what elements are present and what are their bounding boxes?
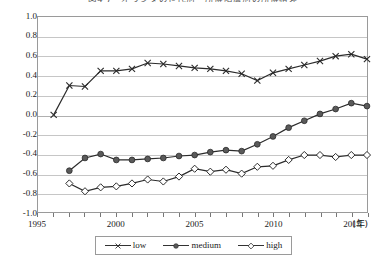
y-axis-tick-label: -0.2	[5, 130, 37, 139]
legend-item-medium[interactable]: medium	[163, 241, 221, 251]
data-point-circle	[113, 157, 119, 163]
x-axis-tick	[147, 213, 148, 217]
x-axis-tick	[258, 213, 259, 217]
data-point-circle	[286, 125, 292, 131]
data-point-x	[115, 243, 120, 248]
y-axis-tick-label: 0.0	[5, 110, 37, 119]
x-axis-tick	[305, 213, 306, 217]
y-axis-tick-label: 0.8	[5, 31, 37, 40]
data-point-circle	[317, 111, 323, 117]
chart-container: 図4-7 オランダの世代別・所得階層別の所得格差 1.00.80.60.40.2…	[0, 0, 386, 261]
y-axis-tick-label: 0.6	[5, 51, 37, 60]
data-point-circle	[145, 156, 151, 162]
x-axis-tick	[289, 213, 290, 217]
data-point-diamond	[301, 151, 308, 158]
legend-marker-circle-icon	[163, 241, 189, 251]
x-axis-tick	[210, 213, 211, 217]
series-layer	[38, 17, 367, 213]
data-point-circle	[348, 100, 354, 106]
x-axis-tick	[352, 213, 353, 217]
chart-legend: lowmediumhigh	[95, 236, 292, 255]
data-point-diamond	[144, 176, 151, 183]
x-axis-tick	[163, 213, 164, 217]
data-point-diamond	[97, 184, 104, 191]
x-axis-tick-label: 1995	[17, 220, 57, 229]
data-point-diamond	[254, 163, 261, 170]
legend-label: high	[266, 241, 282, 250]
plot-area	[37, 16, 368, 213]
data-point-diamond	[160, 178, 167, 185]
legend-label: low	[133, 241, 147, 250]
data-point-circle	[174, 243, 179, 248]
legend-item-high[interactable]: high	[238, 241, 282, 251]
x-axis-tick-label: 2005	[175, 220, 215, 229]
data-point-diamond	[269, 162, 276, 169]
data-point-diamond	[81, 188, 88, 195]
data-point-circle	[98, 151, 104, 157]
legend-item-low[interactable]: low	[105, 241, 147, 251]
x-axis-tick	[84, 213, 85, 217]
data-point-x	[254, 78, 260, 84]
x-axis-tick	[273, 213, 274, 217]
x-axis-tick	[37, 213, 38, 217]
y-axis-tick-label: 0.2	[5, 90, 37, 99]
x-axis-tick	[242, 213, 243, 217]
x-axis-tick-label: 2000	[96, 220, 136, 229]
legend-marker-x-icon	[105, 241, 131, 251]
data-point-circle	[223, 147, 229, 153]
data-point-diamond	[222, 166, 229, 173]
x-axis-tick	[132, 213, 133, 217]
y-axis-tick-label: -0.8	[5, 189, 37, 198]
data-point-circle	[301, 118, 307, 124]
data-point-diamond	[175, 173, 182, 180]
data-point-diamond	[285, 156, 292, 163]
data-point-diamond	[248, 243, 254, 249]
data-point-circle	[333, 106, 339, 112]
data-point-diamond	[128, 180, 135, 187]
data-point-circle	[239, 148, 245, 154]
x-axis-tick	[336, 213, 337, 217]
data-point-diamond	[238, 170, 245, 177]
data-point-diamond	[66, 180, 73, 187]
y-axis-tick-label: 0.4	[5, 71, 37, 80]
x-axis-unit-label: (年)	[352, 220, 386, 229]
y-axis-tick-label: -0.4	[5, 149, 37, 158]
data-point-circle	[82, 155, 88, 161]
data-point-circle	[254, 141, 260, 147]
x-axis-tick	[179, 213, 180, 217]
data-point-circle	[270, 134, 276, 140]
data-point-diamond	[332, 153, 339, 160]
data-point-diamond	[348, 151, 355, 158]
data-point-diamond	[113, 183, 120, 190]
data-point-circle	[207, 149, 213, 155]
y-axis-tick-label: -1.0	[5, 209, 37, 218]
data-point-diamond	[191, 165, 198, 172]
x-axis-tick	[100, 213, 101, 217]
data-point-circle	[66, 168, 72, 174]
y-axis-tick-label: -0.6	[5, 169, 37, 178]
x-axis-tick	[69, 213, 70, 217]
x-axis-tick	[195, 213, 196, 217]
data-point-x	[51, 112, 57, 118]
x-axis-tick	[53, 213, 54, 217]
data-point-diamond	[316, 151, 323, 158]
x-axis-tick	[321, 213, 322, 217]
x-axis-tick	[226, 213, 227, 217]
series-line-low	[54, 54, 367, 115]
data-point-circle	[129, 157, 135, 163]
x-axis-tick	[116, 213, 117, 217]
x-axis-tick	[368, 213, 369, 217]
x-axis-tick-label: 2010	[253, 220, 293, 229]
y-axis-tick-label: 1.0	[5, 12, 37, 21]
legend-marker-diamond-icon	[238, 241, 264, 251]
data-point-circle	[160, 155, 166, 161]
data-point-circle	[192, 152, 198, 158]
data-point-diamond	[207, 168, 214, 175]
data-point-circle	[176, 153, 182, 159]
legend-label: medium	[191, 241, 221, 250]
data-point-circle	[364, 103, 370, 109]
